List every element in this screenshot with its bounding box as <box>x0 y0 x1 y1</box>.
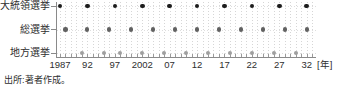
data-point <box>184 51 188 55</box>
data-point <box>272 51 276 55</box>
data-point <box>239 27 243 31</box>
source-note: 出所:著者作成。 <box>4 75 70 85</box>
x-tick-label: 07 <box>164 60 175 70</box>
data-point <box>151 27 155 31</box>
y-axis-line <box>56 2 57 58</box>
data-point <box>80 51 84 55</box>
x-axis-unit-label: [年] <box>317 60 332 70</box>
data-point <box>173 27 177 31</box>
data-point <box>250 4 255 9</box>
y-axis-label: 大統領選挙 <box>0 1 50 11</box>
x-tick-label: 12 <box>192 60 203 70</box>
data-point <box>113 4 118 9</box>
election-timeline-chart: 大統領選挙総選挙地方選挙198792972002071217222732 [年]… <box>0 0 339 87</box>
y-axis-tick <box>51 53 56 54</box>
data-point <box>140 4 145 9</box>
x-tick-label: 27 <box>274 60 285 70</box>
data-point <box>140 51 144 55</box>
data-point <box>304 4 309 9</box>
data-point <box>283 27 287 31</box>
data-point <box>277 4 282 9</box>
data-point <box>107 27 111 31</box>
data-point <box>250 51 254 55</box>
x-tick-label: 92 <box>82 60 93 70</box>
y-axis-label: 総選挙 <box>0 25 50 35</box>
x-tick-label: 2002 <box>132 60 153 70</box>
data-point <box>162 51 166 55</box>
y-axis-tick <box>51 6 56 7</box>
data-point <box>85 4 90 9</box>
data-point <box>217 27 221 31</box>
data-point <box>102 51 106 55</box>
x-tick-label: 17 <box>219 60 230 70</box>
data-point <box>222 4 227 9</box>
x-tick-label: 32 <box>301 60 312 70</box>
data-point <box>167 4 172 9</box>
x-tick-label: 97 <box>110 60 121 70</box>
data-point <box>228 51 232 55</box>
data-point <box>195 27 199 31</box>
x-tick-label: 1987 <box>49 60 70 70</box>
data-point <box>195 4 200 9</box>
data-point <box>206 51 210 55</box>
x-axis-line <box>56 57 316 58</box>
y-axis-label: 地方選挙 <box>0 48 50 58</box>
data-point <box>58 4 63 9</box>
x-tick-label: 22 <box>247 60 258 70</box>
data-point <box>305 27 309 31</box>
data-point <box>294 51 298 55</box>
row-guideline <box>57 30 316 31</box>
data-point <box>63 27 67 31</box>
data-point <box>118 51 122 55</box>
data-point <box>129 27 133 31</box>
data-point <box>261 27 265 31</box>
data-point <box>85 27 89 31</box>
plot-area: 大統領選挙総選挙地方選挙198792972002071217222732 <box>0 0 339 87</box>
y-axis-tick <box>51 29 56 30</box>
